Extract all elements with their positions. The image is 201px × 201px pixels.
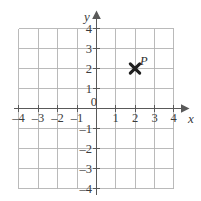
y-axis-arrow-icon: [92, 11, 101, 20]
x-tick-label--3: –3: [31, 112, 46, 125]
coordinate-plane-svg: [0, 0, 201, 201]
y-tick-label-4: 4: [79, 23, 92, 36]
x-tick-label-1: 1: [109, 112, 122, 125]
y-tick-label--2: –2: [76, 143, 92, 156]
x-axis-label: x: [188, 112, 194, 125]
y-tick-label-3: 3: [79, 43, 92, 56]
y-axis-label: y: [84, 10, 90, 23]
data-point-label-p: P: [140, 55, 148, 68]
coordinate-plane-figure: –4 –3 –2 –1 1 2 3 4 4 3 2 1 –1 –2 –3 –4 …: [0, 0, 201, 201]
y-tick-label--4: –4: [76, 183, 92, 196]
x-tick-label--2: –2: [50, 112, 65, 125]
x-tick-label-4: 4: [167, 112, 180, 125]
y-tick-label-2: 2: [79, 63, 92, 76]
origin-label: 0: [84, 96, 97, 109]
y-tick-label--1: –1: [76, 123, 92, 136]
y-tick-label--3: –3: [76, 163, 92, 176]
y-tick-label-1: 1: [79, 83, 92, 96]
x-tick-label-2: 2: [129, 112, 142, 125]
x-tick-label-3: 3: [148, 112, 161, 125]
x-tick-label--4: –4: [11, 112, 26, 125]
